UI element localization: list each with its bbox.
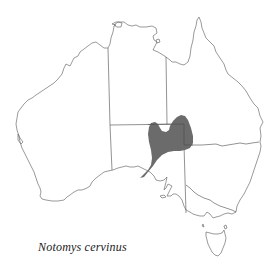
qld-nsw-border: [184, 142, 259, 146]
wa-border: [108, 48, 112, 170]
nt-qld-border: [166, 57, 167, 124]
flinders-island: [224, 225, 227, 229]
kangaroo-island: [160, 195, 166, 198]
tasmania-coastline: [206, 230, 226, 256]
species-caption: Notomys cervinus: [38, 240, 127, 255]
mainland-coastline: [16, 17, 263, 218]
groote-eylandt: [156, 39, 160, 43]
australia-distribution-map: [0, 0, 279, 270]
nsw-vic-border: [186, 185, 236, 212]
king-island: [202, 224, 204, 227]
